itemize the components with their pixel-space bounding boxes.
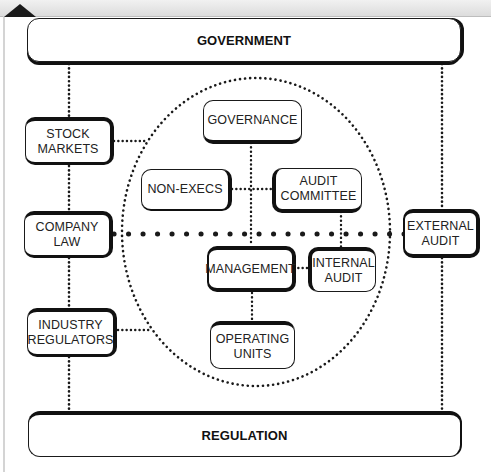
industry-regulators-box: INDUSTRY REGULATORS xyxy=(27,308,117,357)
audit-committee-label: AUDIT COMMITTEE xyxy=(281,174,357,204)
regulation-label: REGULATION xyxy=(202,428,288,443)
non-execs-label: NON-EXECS xyxy=(147,182,222,197)
regulation-box: REGULATION xyxy=(28,411,462,457)
non-execs-box: NON-EXECS xyxy=(141,169,232,211)
audit-committee-box: AUDIT COMMITTEE xyxy=(272,168,362,213)
governance-label: GOVERNANCE xyxy=(208,113,298,128)
operating-units-label: OPERATING UNITS xyxy=(216,332,290,362)
government-box: GOVERNMENT xyxy=(27,18,461,62)
management-label: MANAGEMENT xyxy=(205,262,296,277)
company-law-box: COMPANY LAW xyxy=(24,211,113,258)
company-law-label: COMPANY LAW xyxy=(36,220,99,250)
internal-audit-label: INTERNAL AUDIT xyxy=(312,256,375,286)
management-box: MANAGEMENT xyxy=(207,246,296,292)
operating-units-box: OPERATING UNITS xyxy=(210,321,295,369)
external-audit-label: EXTERNAL AUDIT xyxy=(407,219,474,249)
industry-regulators-label: INDUSTRY REGULATORS xyxy=(28,318,114,348)
stock-markets-label: STOCK MARKETS xyxy=(37,127,98,157)
internal-audit-box: INTERNAL AUDIT xyxy=(308,247,376,292)
external-audit-box: EXTERNAL AUDIT xyxy=(403,209,480,258)
stock-markets-box: STOCK MARKETS xyxy=(25,117,114,165)
governance-box: GOVERNANCE xyxy=(203,100,302,144)
government-label: GOVERNMENT xyxy=(197,33,291,48)
